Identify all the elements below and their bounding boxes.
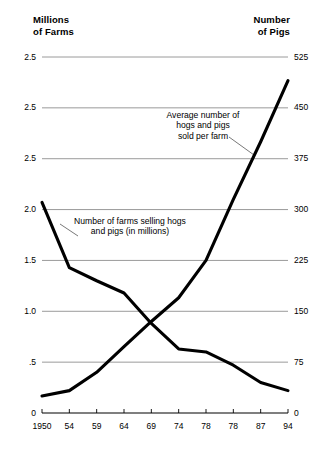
right-tick-label: 75 [294, 358, 303, 367]
left-tick-label: 2.0 [8, 205, 36, 214]
right-tick-label: 0 [294, 409, 299, 418]
leader-line-farms [60, 224, 78, 236]
left-tick-label: 2.5 [8, 154, 36, 163]
axis-ticks [42, 409, 288, 413]
chart-container: Millions of Farms Number of Pigs Average… [0, 0, 316, 453]
right-tick-label: 225 [294, 256, 308, 265]
left-tick-label: 0 [8, 409, 36, 418]
plot-area [0, 0, 316, 453]
right-tick-label: 450 [294, 103, 308, 112]
right-tick-label: 375 [294, 154, 308, 163]
right-tick-label: 525 [294, 53, 308, 62]
left-tick-label: 1.5 [8, 256, 36, 265]
left-tick-label: 2.5 [8, 103, 36, 112]
right-tick-label: 300 [294, 205, 308, 214]
right-tick-label: 150 [294, 307, 308, 316]
x-tick-label: 94 [268, 422, 308, 431]
left-tick-label: 1.0 [8, 307, 36, 316]
left-tick-label: 2.5 [8, 53, 36, 62]
series-line-pigs [42, 81, 288, 396]
leader-line-pigs [229, 137, 254, 155]
gridlines [42, 57, 288, 362]
left-tick-label: .5 [8, 358, 36, 367]
